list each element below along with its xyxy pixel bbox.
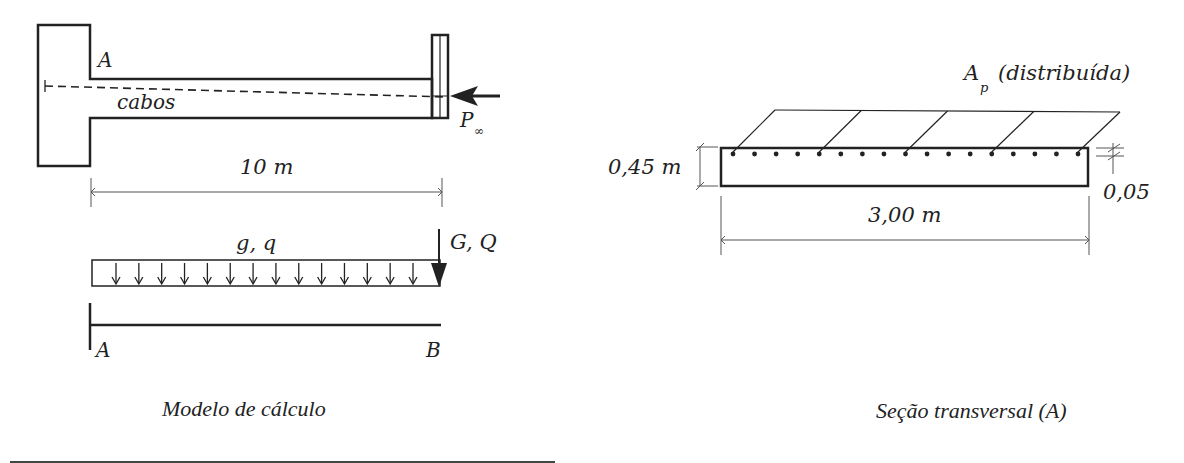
- tendon-area-label: A: [962, 61, 979, 85]
- tendon-dots: [731, 152, 1081, 157]
- arrowhead-down-icon: [431, 263, 447, 287]
- height-label: 0,45 m: [608, 155, 681, 179]
- prestress-force-arrow: [450, 86, 500, 106]
- cables-label: cabos: [117, 90, 175, 114]
- point-load-arrow: [431, 229, 447, 287]
- end-plate: [432, 35, 448, 118]
- span-dimension: [91, 178, 442, 207]
- force-subscript: ∞: [474, 124, 484, 138]
- support-a-label: A: [94, 338, 110, 362]
- distributed-load-box: [92, 260, 440, 286]
- cable-line: [45, 86, 447, 97]
- width-label: 3,00 m: [868, 203, 941, 227]
- span-label: 10 m: [240, 155, 293, 179]
- end-b-label: B: [425, 338, 441, 362]
- tendon-area-note: (distribuída): [998, 61, 1130, 85]
- slab-perspective-lines: [733, 110, 1120, 152]
- height-dimension: [696, 143, 718, 190]
- cover-dimension: [1096, 143, 1124, 174]
- cover-label: 0,05: [1103, 180, 1150, 204]
- point-a-top-label: A: [96, 48, 112, 72]
- diagram-canvas: A cabos P ∞ 10 m g, q G, Q A B Modelo de…: [0, 0, 1184, 463]
- right-caption: Seção transversal (A): [876, 398, 1067, 423]
- distributed-load-label: g, q: [236, 231, 276, 255]
- distributed-load-arrows: [112, 263, 417, 284]
- left-caption: Modelo de cálculo: [161, 396, 326, 421]
- tendon-area-subscript: p: [980, 80, 989, 95]
- force-label: P: [459, 108, 474, 132]
- point-load-label: G, Q: [450, 230, 497, 254]
